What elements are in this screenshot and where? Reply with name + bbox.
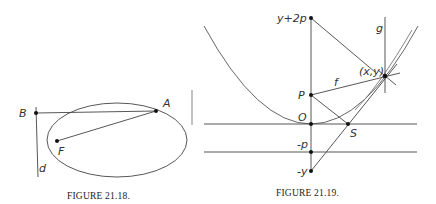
label-neg-y: -y: [297, 165, 308, 178]
label-y2p: y+2p: [276, 12, 307, 25]
label-d: d: [39, 162, 47, 175]
directrix-d: [36, 107, 38, 177]
label-F: F: [58, 145, 65, 158]
segment-P-S: [311, 95, 348, 124]
point-P: [309, 93, 313, 97]
point-F: [55, 139, 59, 143]
point-B: [34, 111, 38, 115]
label-neg-p: -p: [297, 138, 308, 151]
figures-canvas: B A F d FIGURE 21.18. y+2p g (x,: [0, 0, 436, 204]
caption-21-18: FIGURE 21.18.: [67, 191, 130, 201]
label-P: P: [298, 89, 305, 102]
figure-21-19: y+2p g (x,y) f P O S -p -y FIGURE 21.19.: [204, 12, 418, 198]
segment-BA: [36, 111, 156, 113]
point-A: [154, 109, 158, 113]
point-neg-y: [309, 169, 313, 173]
segment-y2p-xy: [311, 18, 375, 72]
ellipse: [47, 103, 187, 177]
point-O: [309, 122, 313, 126]
label-O: O: [298, 111, 307, 124]
label-B: B: [19, 107, 27, 120]
tangent-line: [311, 64, 397, 171]
label-f: f: [334, 76, 340, 89]
figure-21-18: B A F d FIGURE 21.18.: [19, 90, 192, 201]
caption-21-19: FIGURE 21.19.: [276, 188, 339, 198]
label-g: g: [376, 22, 383, 35]
label-xy: (x,y): [359, 65, 384, 78]
point-neg-p: [309, 150, 313, 154]
label-S: S: [350, 127, 357, 140]
point-S: [346, 122, 350, 126]
label-A: A: [162, 97, 171, 110]
point-y2p: [309, 16, 313, 20]
segment-FA: [57, 111, 156, 141]
